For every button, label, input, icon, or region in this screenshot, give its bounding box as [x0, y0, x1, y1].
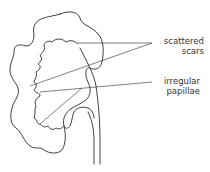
- kidney-outer-contour: [10, 12, 103, 153]
- label-scattered-scars-line1: scattered: [152, 36, 204, 46]
- renal-sinus-contour: [34, 39, 94, 129]
- leader-papillae-1: [40, 82, 152, 92]
- label-irregular-papillae-line1: irregular: [152, 76, 200, 86]
- label-scattered-scars-line2: scars: [152, 46, 204, 56]
- ureter-inner: [88, 112, 94, 164]
- label-scattered-scars: scattered scars: [152, 36, 204, 56]
- ureter-outer: [80, 48, 100, 164]
- label-irregular-papillae-line2: papillae: [152, 86, 200, 96]
- leader-scars-2: [30, 43, 152, 86]
- label-irregular-papillae: irregular papillae: [152, 76, 200, 96]
